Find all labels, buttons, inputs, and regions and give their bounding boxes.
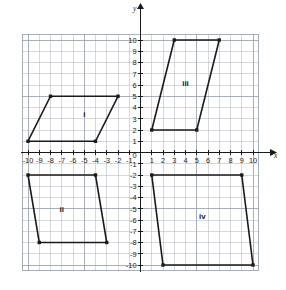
x-tick-label: -10 xyxy=(23,156,34,165)
x-tick-label: 2 xyxy=(161,156,165,165)
x-tick-label: 7 xyxy=(217,156,221,165)
x-tick-label: 4 xyxy=(183,156,187,165)
vertex-marker xyxy=(26,140,29,143)
shape-label-i: i xyxy=(83,110,85,119)
x-tick-label: 10 xyxy=(249,156,257,165)
x-tick-label: -7 xyxy=(58,156,65,165)
y-axis-label: y xyxy=(132,4,137,13)
y-tick-label: -9 xyxy=(130,250,137,259)
vertex-marker xyxy=(218,38,221,41)
vertex-marker xyxy=(195,128,198,131)
vertex-marker xyxy=(94,173,97,176)
shape-label-ii: ii xyxy=(60,205,64,214)
y-tick-label: 8 xyxy=(132,58,136,67)
y-tick-label: 1 xyxy=(132,137,136,146)
y-tick-label: -8 xyxy=(130,238,137,247)
y-tick-label: 4 xyxy=(132,103,136,112)
y-tick-label: -6 xyxy=(130,216,137,225)
y-tick-label: 6 xyxy=(132,81,136,90)
shape-label-iv: iv xyxy=(199,212,206,221)
x-tick-label: -3 xyxy=(103,156,110,165)
coordinate-grid-svg: -10-9-8-7-6-5-4-3-2-112345678910-10-9-8-… xyxy=(0,0,286,290)
y-tick-label: 3 xyxy=(132,115,136,124)
vertex-marker xyxy=(240,173,243,176)
y-tick-label: -1 xyxy=(130,160,137,169)
y-tick-label: -10 xyxy=(126,261,137,270)
vertex-marker xyxy=(94,140,97,143)
x-tick-label: -6 xyxy=(70,156,77,165)
vertex-marker xyxy=(173,38,176,41)
vertex-marker xyxy=(161,263,164,266)
x-tick-label: -4 xyxy=(92,156,99,165)
x-tick-label: -5 xyxy=(81,156,88,165)
x-tick-label: 6 xyxy=(206,156,210,165)
vertex-marker xyxy=(116,95,119,98)
y-tick-label: -5 xyxy=(130,205,137,214)
y-tick-label: 9 xyxy=(132,47,136,56)
vertex-marker xyxy=(105,241,108,244)
y-tick-label: -2 xyxy=(130,171,137,180)
y-tick-label: -4 xyxy=(130,193,137,202)
vertex-marker xyxy=(26,173,29,176)
coordinate-plane-diagram: -10-9-8-7-6-5-4-3-2-112345678910-10-9-8-… xyxy=(0,0,286,290)
y-tick-label: 5 xyxy=(132,92,136,101)
vertex-marker xyxy=(150,128,153,131)
shape-label-iii: iii xyxy=(182,79,189,88)
y-tick-label: -7 xyxy=(130,227,137,236)
x-tick-label: 5 xyxy=(195,156,199,165)
x-tick-label: 9 xyxy=(240,156,244,165)
y-tick-label: 10 xyxy=(128,36,136,45)
vertex-marker xyxy=(49,95,52,98)
x-tick-label: -8 xyxy=(47,156,54,165)
y-tick-label: 7 xyxy=(132,70,136,79)
y-axis-arrow-icon xyxy=(137,3,144,9)
vertex-marker xyxy=(150,173,153,176)
vertex-marker xyxy=(251,263,254,266)
x-tick-label: 1 xyxy=(150,156,154,165)
x-tick-label: -2 xyxy=(115,156,122,165)
x-axis-label: x xyxy=(273,151,278,160)
x-tick-label: 3 xyxy=(172,156,176,165)
y-tick-label: 2 xyxy=(132,126,136,135)
x-tick-label: -9 xyxy=(36,156,43,165)
origin-label: 0 xyxy=(132,151,136,160)
x-tick-label: 8 xyxy=(228,156,232,165)
y-tick-label: -3 xyxy=(130,182,137,191)
vertex-marker xyxy=(38,241,41,244)
